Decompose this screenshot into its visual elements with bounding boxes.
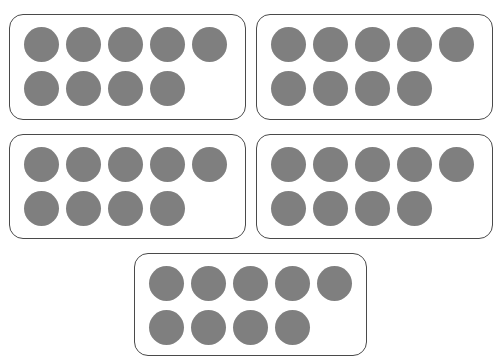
dot-counter: [150, 71, 185, 106]
dot-counter: [275, 266, 310, 301]
dot-counter: [439, 27, 474, 62]
dot-counter: [66, 191, 101, 226]
dot-counter: [355, 71, 390, 106]
dot-counter: [271, 147, 306, 182]
dot-counter: [313, 191, 348, 226]
dot-counter: [24, 27, 59, 62]
dot-counter: [150, 27, 185, 62]
dot-counter: [192, 27, 227, 62]
dot-counter: [397, 147, 432, 182]
dot-counter: [108, 191, 143, 226]
dot-counter: [66, 27, 101, 62]
dot-counter: [397, 27, 432, 62]
dot-counter: [271, 71, 306, 106]
dot-counter: [24, 191, 59, 226]
dot-counter: [66, 71, 101, 106]
dot-counter: [355, 27, 390, 62]
dot-counter: [233, 310, 268, 345]
dot-counter: [439, 147, 474, 182]
dot-counter: [313, 27, 348, 62]
dot-counter: [275, 310, 310, 345]
dot-counter: [66, 147, 101, 182]
dot-counter: [397, 71, 432, 106]
dot-counter: [150, 147, 185, 182]
dot-counter: [150, 191, 185, 226]
dot-counter: [271, 191, 306, 226]
dot-counter: [313, 147, 348, 182]
dot-counter: [191, 310, 226, 345]
dot-counter: [233, 266, 268, 301]
dot-counter: [271, 27, 306, 62]
dot-counter: [24, 71, 59, 106]
dot-counter: [24, 147, 59, 182]
dot-counter: [149, 310, 184, 345]
dot-counter: [355, 191, 390, 226]
dot-counter: [355, 147, 390, 182]
dot-counter: [108, 147, 143, 182]
dot-counter: [191, 266, 226, 301]
dot-counter: [397, 191, 432, 226]
dot-counter: [108, 27, 143, 62]
dot-counter: [108, 71, 143, 106]
dot-counter: [317, 266, 352, 301]
dot-counter: [149, 266, 184, 301]
dot-counter: [313, 71, 348, 106]
dot-counter: [192, 147, 227, 182]
